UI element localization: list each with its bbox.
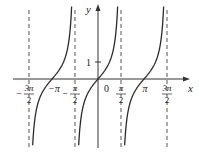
- origin-label: 0: [104, 83, 109, 94]
- x-tick-label: −π: [48, 83, 61, 94]
- y-axis-arrow-icon: [96, 4, 101, 11]
- tangent-branch: [125, 7, 164, 146]
- tangent-branch: [33, 7, 72, 146]
- axes: [13, 4, 190, 148]
- x-tick-numerator: 3π: [161, 83, 172, 93]
- x-tick-labels: 3π2−−ππ2−π2π3π2: [16, 83, 172, 105]
- x-tick-denominator: 2: [119, 95, 124, 105]
- x-tick-sign: −: [62, 88, 68, 99]
- x-tick-numerator: 3π: [23, 83, 34, 93]
- y-axis-label: y: [85, 3, 91, 15]
- y-tick-label: 1: [86, 57, 91, 68]
- x-tick-numerator: π: [119, 83, 124, 93]
- x-axis-arrow-icon: [183, 77, 190, 82]
- x-tick-numerator: π: [73, 83, 78, 93]
- x-axis-label: x: [187, 82, 193, 94]
- x-tick-denominator: 2: [73, 95, 78, 105]
- x-tick-label: π: [142, 83, 148, 94]
- tangent-chart: x y 0 1 3π2−−ππ2−π2π3π2: [0, 0, 199, 159]
- x-tick-sign: −: [16, 88, 22, 99]
- x-tick-denominator: 2: [27, 95, 32, 105]
- axis-labels: x y 0 1: [85, 3, 193, 94]
- x-tick-denominator: 2: [165, 95, 170, 105]
